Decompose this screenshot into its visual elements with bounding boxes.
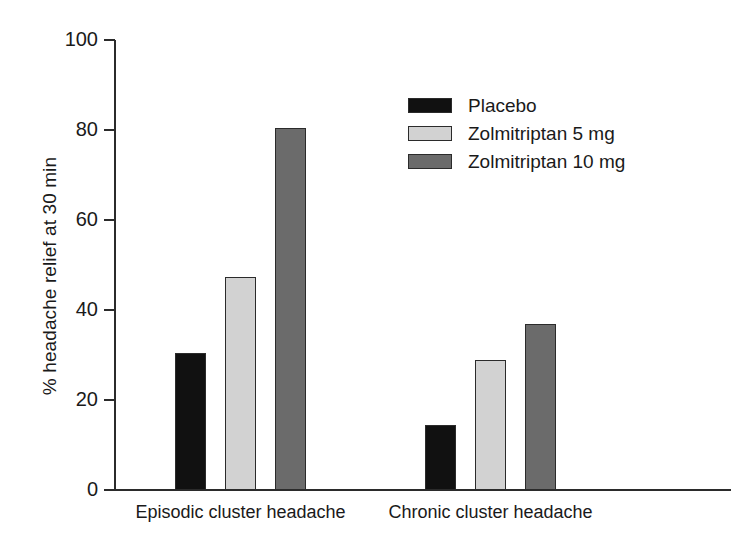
- legend-swatch-icon: [408, 126, 452, 141]
- y-tick-label-text: 0: [28, 479, 98, 499]
- y-tick-label-text: 80: [28, 119, 98, 139]
- legend-item: Zolmitriptan 10 mg: [408, 149, 625, 174]
- x-axis-category-label: Chronic cluster headache: [341, 502, 641, 523]
- legend-item-label: Placebo: [468, 96, 537, 115]
- legend-swatch-icon: [408, 98, 452, 113]
- y-tick-label: 40: [20, 299, 98, 319]
- bar: [525, 324, 556, 491]
- bar: [475, 360, 506, 490]
- y-tick-label: 80: [20, 119, 98, 139]
- bar-chart: % headache relief at 30 min 100806040200…: [0, 0, 745, 548]
- y-tick-label: 60: [20, 209, 98, 229]
- legend-item-label: Zolmitriptan 5 mg: [468, 124, 615, 143]
- y-tick-label: 0: [20, 479, 98, 499]
- legend-swatch-icon: [408, 154, 452, 169]
- legend-item: Placebo: [408, 93, 625, 118]
- y-tick-label-text: 20: [28, 389, 98, 409]
- y-tick-label-text: 100: [28, 29, 98, 49]
- legend-item: Zolmitriptan 5 mg: [408, 121, 625, 146]
- bar: [225, 277, 256, 490]
- bar: [425, 425, 456, 490]
- bar: [275, 128, 306, 490]
- y-tick-label: 100: [20, 29, 98, 49]
- legend-item-label: Zolmitriptan 10 mg: [468, 152, 625, 171]
- bar: [175, 353, 206, 490]
- y-tick-label-text: 40: [28, 299, 98, 319]
- chart-legend: PlaceboZolmitriptan 5 mgZolmitriptan 10 …: [408, 93, 625, 177]
- y-tick-label: 20: [20, 389, 98, 409]
- y-tick-label-text: 60: [28, 209, 98, 229]
